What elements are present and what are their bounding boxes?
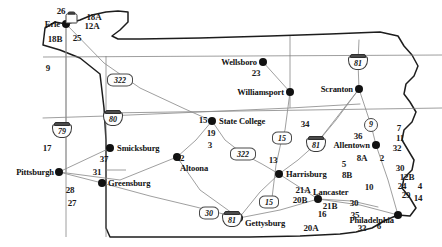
city-dot-harrisburg[interactable] [275,170,283,178]
shield-number: 80 [102,114,124,125]
shield-number: 81 [347,58,369,69]
point-label-5: 5 [342,159,346,169]
shield-crown-icon [68,12,76,15]
city-label-smicksburg: Smicksburg [117,143,159,153]
point-label-2: 2 [380,153,384,163]
point-label-20B: 20B [293,195,307,205]
point-label-21A: 21A [296,185,311,195]
city-label-pittsburgh: Pittsburgh [16,167,54,177]
city-dot-greensburg[interactable] [98,179,106,187]
us-route-shield-322: 322 [230,148,256,161]
point-label-34: 34 [301,119,310,129]
shield-number: 79 [51,126,73,137]
point-label-18B: 18B [48,34,62,44]
interstate-shield-80: 80 [102,109,124,127]
city-label-scranton: Scranton [321,84,353,94]
point-label-8B: 8B [342,170,352,180]
shield-number: 81 [221,215,243,226]
point-label-28: 28 [66,185,75,195]
point-label-27: 27 [68,198,77,208]
point-label-35: 35 [351,210,360,220]
point-label-7: 7 [397,123,401,133]
point-label-33: 33 [358,223,367,233]
us-route-shield-322: 322 [107,74,133,87]
city-label-wellsboro: Wellsboro [221,57,257,67]
point-label-4: 4 [418,181,422,191]
city-dot-pittsburgh[interactable] [55,168,63,176]
pennsylvania-highway-map: ErieWellsboroWilliamsportScrantonState C… [0,0,442,247]
interstate-shield-81: 81 [305,135,327,153]
point-label-29: 29 [402,190,411,200]
point-label-25: 25 [73,33,82,43]
point-label-23: 23 [252,68,261,78]
shield-number: 322 [107,74,133,87]
small-route-marker-icon [66,12,79,25]
interstate-shield-81: 81 [221,210,243,228]
point-label-9: 9 [46,63,50,73]
point-label-10: 10 [365,182,374,192]
city-label-harrisburg: Harrisburg [286,169,327,179]
point-label-16: 16 [318,209,327,219]
grid-reference-lines [43,24,442,237]
shield-number: 30 [199,207,219,220]
city-dot-williamsport[interactable] [286,88,294,96]
point-label-6: 6 [377,221,381,231]
point-label-32: 32 [393,143,402,153]
city-label-lancaster: Lancaster [313,187,348,197]
interstate-shield-79: 79 [51,121,73,139]
city-dot-wellsboro[interactable] [259,58,267,66]
point-label-3: 3 [208,140,212,150]
city-label-greensburg: Greensburg [108,178,150,188]
city-dot-allentown[interactable] [372,141,380,149]
point-label-11: 11 [396,133,404,143]
city-label-gettysburg: Gettysburg [245,218,285,228]
point-label-20A: 20A [304,223,319,233]
city-label-altoona: Altoona [180,163,208,173]
point-label-8A: 8A [357,153,368,163]
point-label-36: 36 [354,131,363,141]
point-label-37: 37 [100,154,109,164]
shield-number: 15 [272,132,292,145]
point-label-31: 31 [93,167,102,177]
point-label-17: 17 [43,143,52,153]
shield-number: 322 [230,148,256,161]
point-label-22: 22 [176,153,185,163]
city-label-state-college: State College [219,116,265,126]
us-route-shield-15: 15 [272,132,292,145]
city-label-williamsport: Williamsport [237,87,284,97]
city-dot-smicksburg[interactable] [106,144,114,152]
shield-body [66,14,78,24]
us-route-shield-15: 15 [259,196,279,209]
shield-number: 9 [365,119,377,131]
point-label-26: 26 [57,6,66,16]
point-label-12A: 12A [85,21,100,31]
point-label-19: 19 [207,128,216,138]
interstate-shield-81: 81 [347,53,369,71]
point-label-30: 30 [350,198,359,208]
city-label-erie: Erie [45,19,60,29]
point-label-14: 14 [414,193,423,203]
point-label-15: 15 [199,115,208,125]
city-label-allentown: Allentown [334,140,370,150]
shield-number: 81 [305,140,327,151]
city-dot-state-college[interactable] [208,117,216,125]
city-dot-scranton[interactable] [355,85,363,93]
shield-number: 15 [259,196,279,209]
point-label-13: 13 [269,155,278,165]
city-dot-philadelphia[interactable] [394,211,402,219]
turnpike-circle-shield-9: 9 [364,118,378,132]
us-route-shield-30: 30 [199,207,219,220]
